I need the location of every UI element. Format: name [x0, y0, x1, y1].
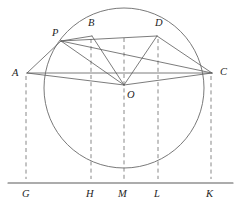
label-K: K	[205, 188, 214, 199]
geometry-diagram-canvas: P B D A C O G H M L K	[0, 0, 242, 204]
label-P: P	[51, 27, 59, 38]
segment-A-P	[27, 41, 61, 73]
vertex-labels: P B D A C O	[11, 17, 228, 100]
label-C: C	[220, 66, 228, 77]
segments-group	[27, 36, 212, 85]
label-D: D	[154, 17, 163, 28]
label-G: G	[22, 188, 30, 199]
label-L: L	[153, 188, 160, 199]
main-circle	[44, 8, 204, 168]
label-O: O	[127, 89, 135, 100]
segment-B-O	[92, 36, 124, 85]
geometry-figure: P B D A C O G H M L K	[0, 0, 242, 204]
label-H: H	[85, 188, 95, 199]
segment-O-C	[124, 73, 212, 85]
dashed-vertical-lines	[26, 38, 211, 179]
label-A: A	[11, 67, 19, 78]
label-M: M	[117, 188, 128, 199]
axis-labels: G H M L K	[22, 188, 214, 199]
label-B: B	[88, 17, 95, 28]
